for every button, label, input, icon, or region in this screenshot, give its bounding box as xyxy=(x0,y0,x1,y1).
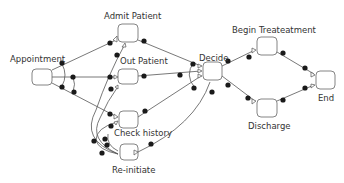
port-dots xyxy=(59,38,307,155)
label-reinit: Re-initiate xyxy=(112,165,155,175)
arrow-icon xyxy=(252,48,256,53)
nodes xyxy=(32,24,335,160)
label-out: Out Patient xyxy=(120,56,168,66)
arrow-icon xyxy=(114,75,118,79)
arrow-icon xyxy=(311,72,315,77)
arrow-icon xyxy=(198,69,202,73)
label-begin: Begin Treateatment xyxy=(232,25,316,35)
node-end[interactable] xyxy=(316,71,335,89)
fork-arc-1 xyxy=(62,64,65,86)
node-discharge[interactable] xyxy=(257,99,277,117)
edge-reinit-decide xyxy=(138,82,210,152)
arrow-icon xyxy=(311,84,315,88)
arrow-icon xyxy=(115,85,118,89)
node-check[interactable] xyxy=(119,111,138,128)
node-admit[interactable] xyxy=(118,24,138,42)
label-admit: Admit Patient xyxy=(104,11,161,21)
edge-out-decide xyxy=(138,71,201,76)
arrow-icon xyxy=(198,74,202,78)
node-appointment[interactable] xyxy=(32,69,52,85)
node-begin[interactable] xyxy=(257,37,277,55)
arrow-icon xyxy=(252,99,256,104)
label-end: End xyxy=(318,93,334,103)
arrow-icon xyxy=(122,43,126,47)
label-decide: Decide xyxy=(199,53,228,63)
node-decide[interactable] xyxy=(203,62,222,80)
edges xyxy=(52,40,314,154)
label-check: Check history xyxy=(114,128,172,138)
arrow-icon xyxy=(114,114,118,119)
arrow-icon xyxy=(114,121,118,125)
label-discharge: Discharge xyxy=(248,121,291,131)
label-appointment: Appointment xyxy=(10,54,65,64)
arrow-icon xyxy=(198,64,202,68)
node-out[interactable] xyxy=(118,69,138,84)
